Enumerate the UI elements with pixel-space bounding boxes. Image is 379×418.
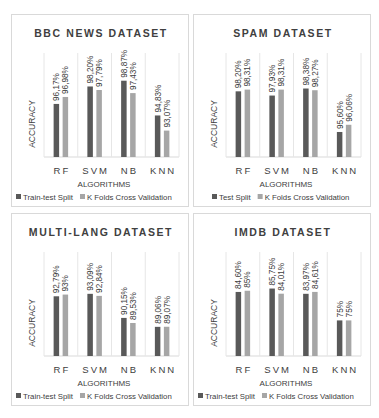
bar-k-folds-cross-validation-nb xyxy=(312,90,318,157)
data-label: 97,43% xyxy=(129,62,138,90)
category-tick-label: KNN xyxy=(332,364,358,375)
category-tick-label: RF xyxy=(54,165,71,176)
legend: Train-test SplitK Folds Cross Validation xyxy=(198,392,354,401)
legend-swatch xyxy=(258,194,263,199)
category-tick-label: RF xyxy=(54,364,71,375)
x-axis-title: ALGORITHMS xyxy=(78,180,131,189)
data-label: 98,87% xyxy=(120,50,129,78)
data-label: 98,27% xyxy=(311,59,320,87)
data-label: 93% xyxy=(61,275,70,291)
legend-label: K Folds Cross Validation xyxy=(87,392,172,401)
bar-train-test-split-knn xyxy=(155,327,161,356)
data-label: 98,20% xyxy=(86,56,95,84)
category-tick-label: KNN xyxy=(332,165,358,176)
data-label: 98,20% xyxy=(234,61,243,89)
legend-swatch xyxy=(16,393,21,398)
bar-train-test-split-nb xyxy=(303,294,309,356)
legend-label: Train-test Split xyxy=(205,392,256,401)
bar-train-test-split-svm xyxy=(87,294,93,356)
data-label: 75% xyxy=(345,301,354,317)
data-label: 98,38% xyxy=(302,58,311,86)
legend-label: Train-test Split xyxy=(23,392,74,401)
data-label: 92,79% xyxy=(52,266,61,294)
bar-test-split-knn xyxy=(337,132,343,157)
category-tick-label: NB xyxy=(303,165,320,176)
bar-train-test-split-rf xyxy=(54,296,60,356)
y-axis-title: ACCURACY xyxy=(209,100,219,148)
data-label: 94,83% xyxy=(154,85,163,113)
x-axis-title: ALGORITHMS xyxy=(260,180,313,189)
data-label: 89,07% xyxy=(163,296,172,324)
chart-title: BBC NEWS DATASET xyxy=(34,27,168,39)
x-axis-title: ALGORITHMS xyxy=(260,379,313,388)
y-axis-title: ACCURACY xyxy=(27,100,37,148)
bar-train-test-split-knn xyxy=(155,115,161,157)
data-label: 92,84% xyxy=(95,265,104,293)
category-tick-label: SVM xyxy=(82,165,109,176)
bar-train-test-split-svm xyxy=(269,289,275,356)
legend-swatch xyxy=(80,393,85,398)
data-label: 98,31% xyxy=(243,59,252,87)
legend-swatch xyxy=(80,194,85,199)
chart-svg: BBC NEWS DATASETACCURACY96,17%96,98%RF98… xyxy=(12,15,190,208)
bar-k-folds-cross-validation-nb xyxy=(312,292,318,356)
category-tick-label: SVM xyxy=(82,364,109,375)
bar-train-test-split-svm xyxy=(87,86,93,157)
bar-k-folds-cross-validation-knn xyxy=(346,320,352,356)
category-tick-label: RF xyxy=(236,165,253,176)
chart-svg: IMDB DATASETACCURACY84,60%85%RF85,75%84,… xyxy=(194,214,372,407)
legend: Test SplitK Folds Cross Validation xyxy=(212,193,349,202)
bar-train-test-split-nb xyxy=(121,318,127,356)
legend-label: Train-test Split xyxy=(23,193,74,202)
category-tick-label: KNN xyxy=(150,364,176,375)
bar-k-folds-cross-validation-svm xyxy=(278,90,284,157)
data-label: 93,09% xyxy=(86,263,95,291)
data-label: 83,97% xyxy=(302,263,311,291)
bar-k-folds-cross-validation-rf xyxy=(245,291,251,356)
data-label: 96,17% xyxy=(52,73,61,101)
data-label: 85,75% xyxy=(268,258,277,286)
bar-k-folds-cross-validation-knn xyxy=(164,131,170,157)
bar-k-folds-cross-validation-svm xyxy=(96,296,102,356)
data-label: 97,93% xyxy=(268,65,277,93)
chart-panel-multi-lang: MULTI-LANG DATASETACCURACY92,79%93%RF93,… xyxy=(11,213,189,406)
chart-title: IMDB DATASET xyxy=(235,226,332,238)
data-label: 96,98% xyxy=(61,66,70,94)
data-label: 84,01% xyxy=(277,263,286,291)
bar-test-split-rf xyxy=(236,91,242,157)
bar-k-folds-cross-validation-rf xyxy=(63,97,69,157)
bar-k-folds-cross-validation-nb xyxy=(130,323,136,356)
category-tick-label: NB xyxy=(121,165,138,176)
bar-k-folds-cross-validation-nb xyxy=(130,93,136,157)
data-label: 96,06% xyxy=(345,94,354,122)
data-label: 89,53% xyxy=(129,292,138,320)
data-label: 97,79% xyxy=(95,59,104,87)
bar-train-test-split-knn xyxy=(337,320,343,356)
category-tick-label: RF xyxy=(236,364,253,375)
legend-label: K Folds Cross Validation xyxy=(265,193,350,202)
data-label: 84,60% xyxy=(234,261,243,289)
legend-label: K Folds Cross Validation xyxy=(87,193,172,202)
legend-swatch xyxy=(16,194,21,199)
y-axis-title: ACCURACY xyxy=(209,299,219,347)
legend-label: Test Split xyxy=(219,193,251,202)
bar-train-test-split-nb xyxy=(121,81,127,157)
bar-train-test-split-rf xyxy=(54,104,60,157)
legend-swatch xyxy=(262,393,267,398)
x-axis-title: ALGORITHMS xyxy=(78,379,131,388)
chart-panel-imdb: IMDB DATASETACCURACY84,60%85%RF85,75%84,… xyxy=(193,213,371,406)
chart-panel-bbc-news: BBC NEWS DATASETACCURACY96,17%96,98%RF98… xyxy=(11,14,189,207)
legend-swatch xyxy=(198,393,203,398)
bar-train-test-split-rf xyxy=(236,292,242,356)
y-axis-title: ACCURACY xyxy=(27,299,37,347)
bar-k-folds-cross-validation-svm xyxy=(96,90,102,157)
chart-title: SPAM DATASET xyxy=(233,27,333,39)
bar-k-folds-cross-validation-rf xyxy=(63,295,69,356)
category-tick-label: NB xyxy=(121,364,138,375)
category-tick-label: NB xyxy=(303,364,320,375)
chart-svg: SPAM DATASETACCURACY98,20%98,31%RF97,93%… xyxy=(194,15,372,208)
chart-title: MULTI-LANG DATASET xyxy=(29,226,173,238)
bar-k-folds-cross-validation-rf xyxy=(245,90,251,157)
category-tick-label: SVM xyxy=(264,364,291,375)
bar-k-folds-cross-validation-svm xyxy=(278,294,284,356)
